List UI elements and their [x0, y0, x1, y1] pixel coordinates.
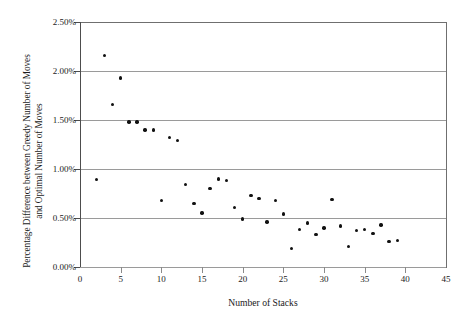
x-axis-tick-label: 35 [350, 274, 380, 284]
data-point [135, 120, 138, 123]
data-point [347, 245, 350, 248]
data-point [111, 103, 114, 106]
data-point [355, 229, 358, 232]
data-point [339, 224, 342, 227]
data-point [168, 136, 171, 139]
x-axis-tick-label: 15 [187, 274, 217, 284]
data-point [379, 223, 382, 226]
data-point [249, 194, 252, 197]
data-point [200, 211, 203, 214]
data-point [127, 120, 130, 123]
data-point [103, 54, 106, 57]
data-point [152, 128, 155, 131]
data-point [95, 178, 98, 181]
data-point [184, 183, 187, 186]
x-axis-title: Number of Stacks [80, 297, 446, 308]
data-point [330, 198, 333, 201]
x-axis-tick-mark [365, 267, 366, 273]
data-point [233, 206, 236, 209]
scatter-chart: Percentage Difference between Greedy Num… [0, 0, 475, 320]
x-axis-tick-mark [121, 267, 122, 273]
data-point [176, 139, 179, 142]
plot-area [80, 22, 446, 267]
data-point [290, 247, 293, 250]
x-axis-tick-label: 30 [309, 274, 339, 284]
data-point [322, 226, 325, 229]
x-axis-tick-label: 25 [268, 274, 298, 284]
data-point [257, 197, 260, 200]
data-point [371, 232, 374, 235]
x-axis-tick-mark [243, 267, 244, 273]
data-point [387, 240, 390, 243]
data-point [208, 187, 211, 190]
data-point [119, 76, 122, 79]
x-axis-tick-mark [161, 267, 162, 273]
data-point [241, 217, 244, 220]
data-point [217, 177, 220, 180]
data-point [265, 220, 268, 223]
x-axis-tick-mark [283, 267, 284, 273]
data-point [143, 128, 146, 131]
x-axis-tick-label: 45 [431, 274, 461, 284]
data-point [306, 221, 309, 224]
x-axis-tick-mark [324, 267, 325, 273]
x-axis-tick-mark [202, 267, 203, 273]
data-point [274, 199, 277, 202]
x-axis-tick-label: 40 [390, 274, 420, 284]
data-point [225, 179, 228, 182]
data-point [282, 212, 285, 215]
data-point [396, 239, 399, 242]
data-point [192, 202, 195, 205]
x-axis-tick-label: 5 [106, 274, 136, 284]
data-point [314, 233, 317, 236]
x-axis-tick-label: 20 [228, 274, 258, 284]
x-axis-tick-label: 10 [146, 274, 176, 284]
data-point [363, 228, 366, 231]
data-point [160, 199, 163, 202]
data-point [298, 228, 301, 231]
x-axis-tick-label: 0 [65, 274, 95, 284]
x-axis-tick-mark [405, 267, 406, 273]
